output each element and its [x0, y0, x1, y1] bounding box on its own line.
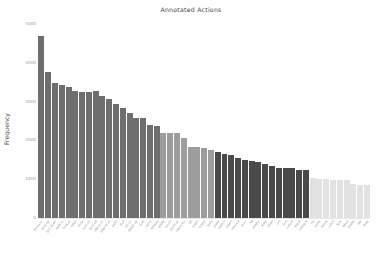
y-axis-tick-label: 4000	[18, 61, 36, 65]
x-axis-tick-labels: move topick upput downwalk tolook atopen…	[38, 219, 370, 265]
bar[interactable]	[316, 179, 322, 218]
bar[interactable]	[147, 125, 153, 218]
bar[interactable]	[276, 168, 282, 218]
bar[interactable]	[167, 133, 173, 218]
bar[interactable]	[201, 148, 207, 218]
y-axis-tick-label: 5000	[18, 22, 36, 26]
bar[interactable]	[140, 118, 146, 218]
bar[interactable]	[364, 185, 370, 218]
y-axis-tick-label: 0	[18, 216, 36, 220]
bar[interactable]	[99, 96, 105, 218]
y-axis-tick-label: 1000	[18, 177, 36, 181]
y-axis-label-text: Frequency	[3, 94, 10, 164]
bar[interactable]	[133, 118, 139, 218]
bar[interactable]	[106, 99, 112, 219]
bar[interactable]	[337, 180, 343, 218]
y-axis-label: Frequency	[3, 24, 10, 94]
bar[interactable]	[330, 180, 336, 218]
bar[interactable]	[79, 92, 85, 218]
bar[interactable]	[188, 147, 194, 218]
bar[interactable]	[120, 108, 126, 218]
bar[interactable]	[269, 166, 275, 218]
bar[interactable]	[262, 164, 268, 218]
bar[interactable]	[228, 155, 234, 218]
bar[interactable]	[249, 161, 255, 218]
bar[interactable]	[66, 87, 72, 218]
bar[interactable]	[350, 184, 356, 218]
bar[interactable]	[160, 133, 166, 218]
bar[interactable]	[127, 113, 133, 218]
plot-area	[38, 24, 370, 218]
bar[interactable]	[303, 170, 309, 218]
bar[interactable]	[255, 162, 261, 218]
bar[interactable]	[45, 72, 51, 218]
bar[interactable]	[38, 36, 44, 218]
bar[interactable]	[289, 168, 295, 218]
bar[interactable]	[154, 126, 160, 218]
chart-title: Annotated Actions	[0, 6, 382, 13]
bar[interactable]	[194, 147, 200, 218]
bar[interactable]	[323, 179, 329, 218]
bar[interactable]	[208, 150, 214, 218]
bar[interactable]	[174, 133, 180, 218]
bar[interactable]	[283, 168, 289, 218]
bar[interactable]	[72, 91, 78, 218]
bar[interactable]	[222, 154, 228, 218]
y-axis-tick-label: 3000	[18, 100, 36, 104]
bar[interactable]	[344, 180, 350, 218]
bar[interactable]	[113, 104, 119, 218]
bar[interactable]	[357, 185, 363, 218]
bar[interactable]	[215, 152, 221, 218]
bar[interactable]	[235, 158, 241, 218]
bar[interactable]	[310, 178, 316, 218]
bar[interactable]	[59, 85, 65, 218]
bar[interactable]	[93, 91, 99, 218]
bar[interactable]	[181, 138, 187, 218]
y-axis-tick-label: 2000	[18, 138, 36, 142]
bar-chart-figure: Annotated Actions Frequency 010002000300…	[0, 0, 382, 267]
bar[interactable]	[242, 160, 248, 218]
bar[interactable]	[52, 83, 58, 218]
bar[interactable]	[86, 92, 92, 218]
bar[interactable]	[296, 170, 302, 218]
bar-series	[38, 24, 370, 218]
